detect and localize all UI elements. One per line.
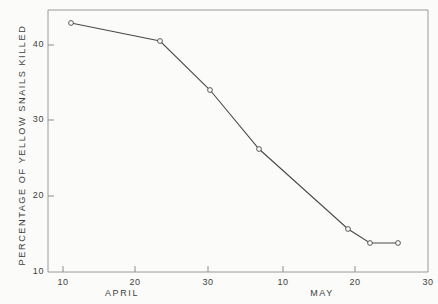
data-series-line	[71, 23, 398, 243]
data-point-marker	[257, 147, 262, 152]
data-point-marker	[158, 39, 163, 44]
chart-plot-area	[0, 0, 438, 304]
axis-frame	[48, 10, 428, 272]
data-point-marker	[368, 241, 373, 246]
data-point-marker	[69, 21, 74, 26]
data-point-marker	[396, 241, 401, 246]
data-point-marker	[346, 227, 351, 232]
chart-figure: PERCENTAGE OF YELLOW SNAILS KILLED 40 30…	[0, 0, 438, 304]
data-point-marker	[208, 88, 213, 93]
